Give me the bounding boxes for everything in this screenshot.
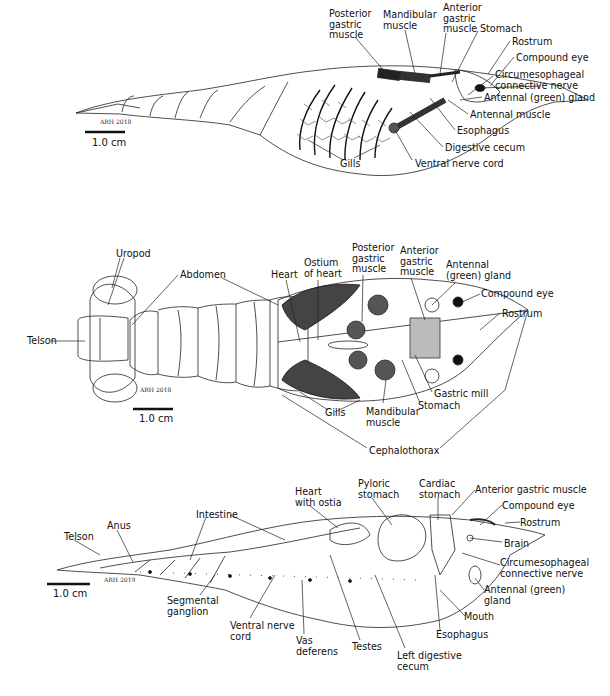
label-vas-deferens: Vas deferens: [296, 636, 338, 657]
scale-bars: [47, 132, 173, 584]
artist-signature-2: ARH 2018: [140, 386, 171, 393]
dorsal-figure: [50, 258, 528, 448]
label-anterior-gastric-muscle: Anterior gastric muscle: [475, 485, 587, 496]
label-gills: Gills: [325, 408, 345, 419]
label-anus: Anus: [107, 521, 131, 532]
label-rostrum: Rostrum: [520, 518, 560, 529]
label-compound-eye: Compound eye: [516, 53, 589, 64]
lateral-internal-figure: [57, 490, 545, 648]
label-circumesophageal-nerve: Circumesophageal connective nerve: [495, 70, 584, 91]
label-ostium-of-heart: Ostium of heart: [304, 258, 342, 279]
label-mouth: Mouth: [464, 612, 494, 623]
label-compound-eye: Compound eye: [481, 289, 554, 300]
label-rostrum: Rostrum: [502, 309, 542, 320]
label-ventral-nerve-cord: Ventral nerve cord: [415, 159, 504, 170]
label-esophagus: Esophagus: [436, 630, 488, 641]
label-mandibular-muscle: Mandibular muscle: [383, 10, 437, 31]
label-stomach: Stomach: [418, 401, 460, 412]
label-stomach: Stomach: [480, 24, 522, 35]
label-anterior-gastric-muscle: Anterior gastric muscle: [443, 3, 482, 35]
artist-signature-1: ARH 2018: [100, 118, 131, 125]
label-rostrum: Rostrum: [512, 37, 552, 48]
label-digestive-cecum: Digestive cecum: [445, 143, 525, 154]
label-testes: Testes: [352, 642, 382, 653]
label-posterior-gastric-muscle: Posterior gastric muscle: [329, 9, 371, 41]
label-cardiac-stomach: Cardiac stomach: [419, 479, 460, 500]
label-abdomen: Abdomen: [180, 270, 226, 281]
label-gills: Gills: [340, 159, 360, 170]
label-cephalothorax: Cephalothorax: [369, 446, 439, 457]
label-telson: Telson: [64, 532, 94, 543]
artist-signature-3: ARH 2019: [104, 576, 135, 583]
label-esophagus: Esophagus: [457, 126, 509, 137]
label-pyloric-stomach: Pyloric stomach: [358, 479, 399, 500]
label-gastric-mill: Gastric mill: [434, 389, 488, 400]
label-mandibular-muscle: Mandibular muscle: [366, 407, 420, 428]
label-antennal-gland: Antennal (green) gland: [484, 93, 595, 104]
label-intestine: Intestine: [196, 510, 238, 521]
label-antennal-gland: Antennal (green) gland: [446, 260, 511, 281]
label-heart-with-ostia: Heart with ostia: [295, 487, 342, 508]
label-brain: Brain: [504, 539, 529, 550]
label-left-digestive-cecum: Left digestive cecum: [397, 651, 462, 672]
label-segmental-ganglion: Segmental ganglion: [167, 596, 219, 617]
label-circumesophageal-nerve: Circumesophageal connective nerve: [500, 558, 589, 579]
label-ventral-nerve-cord: Ventral nerve cord: [230, 621, 295, 642]
scale-bar-label-3: 1.0 cm: [53, 588, 87, 599]
label-compound-eye: Compound eye: [502, 501, 575, 512]
label-antennal-gland: Antennal (green) gland: [484, 585, 565, 606]
label-uropod: Uropod: [116, 249, 151, 260]
scale-bar-label-2: 1.0 cm: [139, 413, 173, 424]
label-anterior-gastric-muscle: Anterior gastric muscle: [400, 246, 439, 278]
label-posterior-gastric-muscle: Posterior gastric muscle: [352, 243, 394, 275]
scale-bar-label-1: 1.0 cm: [92, 137, 126, 148]
label-heart: Heart: [271, 270, 298, 281]
label-telson: Telson: [27, 336, 57, 347]
label-antennal-muscle: Antennal muscle: [470, 110, 550, 121]
